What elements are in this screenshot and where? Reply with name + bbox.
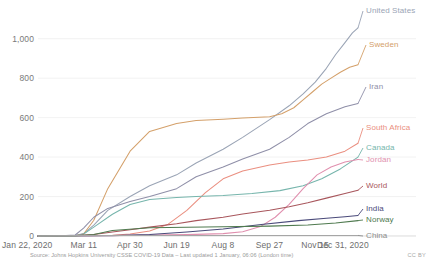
series-leader-jordan xyxy=(358,159,363,160)
series-label-world: World xyxy=(366,181,387,190)
y-tick-label-800: 800 xyxy=(0,73,34,83)
series-line-sweden xyxy=(38,65,358,236)
x-tick-label-3: Jun 19 xyxy=(164,240,190,250)
covid-cumulative-deaths-line-chart: 02004006008001,000 Jan 22, 2020Mar 11Apr… xyxy=(0,0,431,271)
x-tick-label-4: Aug 8 xyxy=(212,240,235,250)
series-label-sweden: Sweden xyxy=(369,40,399,49)
series-leader-india xyxy=(358,209,363,215)
series-leader-united-states xyxy=(358,11,363,28)
x-tick-label-2: Apr 30 xyxy=(117,240,143,250)
series-label-iran: Iran xyxy=(369,82,383,91)
series-label-united-states: United States xyxy=(366,6,415,15)
series-label-india: India xyxy=(366,204,384,213)
license-note: CC BY xyxy=(407,252,426,258)
series-label-norway: Norway xyxy=(366,215,394,224)
x-tick-label-0: Jan 22, 2020 xyxy=(2,240,52,250)
series-label-south-africa: South Africa xyxy=(366,123,410,132)
series-label-china: China xyxy=(366,231,387,240)
series-leader-iran xyxy=(358,87,366,103)
series-line-iran xyxy=(38,103,358,236)
series-line-norway xyxy=(38,221,358,236)
series-label-jordan: Jordan xyxy=(366,155,391,164)
series-leader-world xyxy=(358,186,363,190)
y-tick-label-1000: 1,000 xyxy=(0,34,34,44)
series-leader-sweden xyxy=(358,45,366,65)
series-line-world xyxy=(38,190,358,236)
x-tick-label-1: Mar 11 xyxy=(71,240,97,250)
y-tick-label-400: 400 xyxy=(0,152,34,162)
series-leader-norway xyxy=(358,220,363,221)
x-tick-label-5: Sep 27 xyxy=(256,240,284,250)
series-leader-south-africa xyxy=(358,128,363,143)
series-leader-china xyxy=(358,235,363,236)
source-note: Source: Johns Hopkins University CSSE CO… xyxy=(30,252,293,258)
series-leader-canada xyxy=(358,148,363,157)
x-tick-label-7: Dec 31, 2020 xyxy=(317,240,369,250)
series-label-canada: Canada xyxy=(366,143,395,152)
y-tick-label-600: 600 xyxy=(0,113,34,123)
series-line-united-states xyxy=(38,28,358,236)
y-tick-label-200: 200 xyxy=(0,192,34,202)
